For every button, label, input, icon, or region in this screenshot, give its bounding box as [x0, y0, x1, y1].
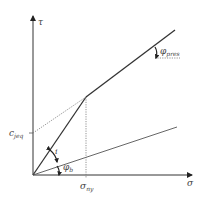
residual-line: [86, 30, 175, 97]
i-label: i: [55, 147, 58, 156]
phi-b-arc: [57, 166, 59, 175]
dilation-line: [33, 97, 86, 175]
sigma-ny-label: σny: [80, 181, 94, 193]
shear-envelope-diagram: τ σ cjeq σny φpres φb i: [0, 0, 210, 197]
tau-label: τ: [38, 17, 44, 27]
cohesion-label: cjeq: [9, 128, 23, 140]
phi-b-label: φb: [63, 162, 73, 173]
phi-res-arc: [155, 47, 157, 58]
cohesion-projection: [33, 97, 86, 133]
phi-res-label: φpres: [160, 46, 180, 58]
sigma-label: σ: [187, 178, 194, 188]
